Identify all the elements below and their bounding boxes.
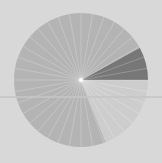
pie-chart	[0, 0, 162, 163]
horizontal-band	[0, 96, 162, 98]
center-dot	[79, 78, 83, 82]
pie-chart-svg	[0, 0, 162, 163]
